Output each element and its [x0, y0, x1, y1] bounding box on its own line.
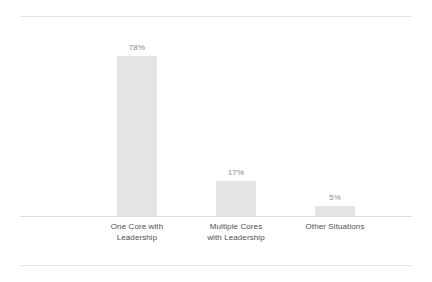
- bar-column-other-situations: 5%: [275, 17, 395, 216]
- bar-value-label-0: 78%: [129, 43, 146, 53]
- bar-chart-figure: 78% 17% 5% One Core with Leadership Mult…: [0, 0, 432, 282]
- bar-group-1: 17%: [216, 168, 256, 216]
- bar-value-label-1: 17%: [228, 168, 245, 178]
- x-tick-label-1-line-2: with Leadership: [176, 232, 296, 243]
- x-axis-tick-labels: One Core with Leadership Multiple Cores …: [20, 221, 412, 251]
- plot-area: 78% 17% 5%: [20, 17, 412, 216]
- bottom-divider-rule: [20, 265, 412, 266]
- bar-1: [216, 181, 256, 216]
- bar-group-0: 78%: [117, 43, 157, 216]
- bar-group-2: 5%: [315, 193, 355, 216]
- bar-0: [117, 56, 157, 216]
- x-tick-label-2-line-1: Other Situations: [275, 221, 395, 232]
- x-axis-line: [20, 216, 412, 217]
- bar-value-label-2: 5%: [329, 193, 341, 203]
- bar-2: [315, 206, 355, 216]
- x-tick-label-2: Other Situations: [275, 221, 395, 232]
